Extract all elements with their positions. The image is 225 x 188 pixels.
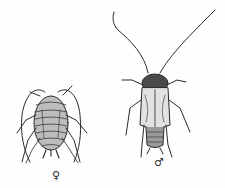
female-cockroach (17, 86, 87, 163)
male-symbol: ♂ (154, 157, 164, 168)
cockroach-drawings (0, 0, 225, 188)
illustration: ♀ ♂ (0, 0, 225, 188)
male-cockroach (113, 10, 215, 157)
female-symbol: ♀ (52, 170, 60, 181)
